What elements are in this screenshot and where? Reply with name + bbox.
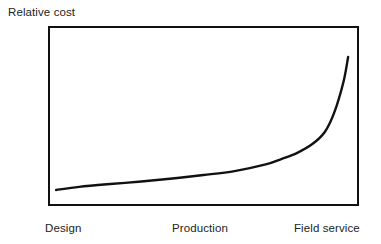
y-axis-label: Relative cost bbox=[8, 6, 75, 19]
x-tick-label-design: Design bbox=[45, 222, 81, 235]
x-tick-label-production: Production bbox=[172, 222, 228, 235]
chart-figure: Relative cost Design Production Field se… bbox=[0, 0, 381, 244]
relative-cost-curve bbox=[56, 57, 348, 190]
x-axis-tick-labels: Design Production Field service bbox=[0, 222, 381, 242]
curve-svg bbox=[48, 26, 359, 206]
x-tick-label-field-service: Field service bbox=[294, 222, 360, 235]
